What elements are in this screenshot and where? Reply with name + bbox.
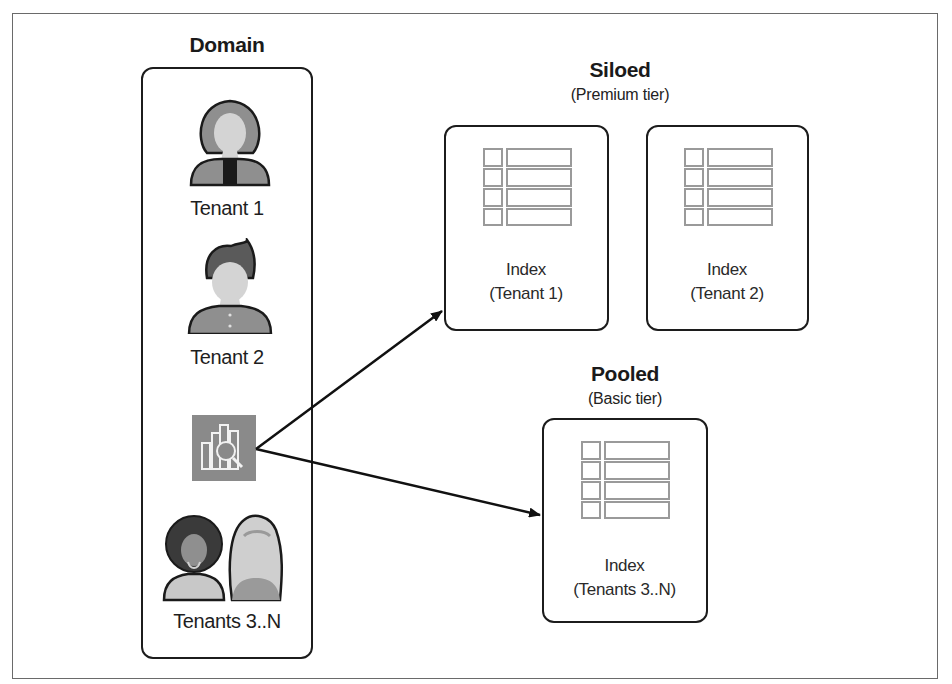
arrow-to-siloed	[256, 311, 442, 449]
arrows-overlay	[0, 0, 952, 684]
arrow-to-pooled	[256, 449, 540, 515]
